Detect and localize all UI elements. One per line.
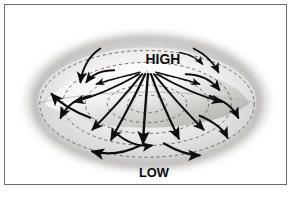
figure-root: HIGH LOW [0,0,292,202]
figure-caption-strip [4,188,287,200]
figure-frame: HIGH LOW [4,4,287,185]
pressure-dome-diagram: HIGH LOW [5,5,286,184]
high-label: HIGH [146,51,181,67]
low-label: LOW [139,165,170,180]
